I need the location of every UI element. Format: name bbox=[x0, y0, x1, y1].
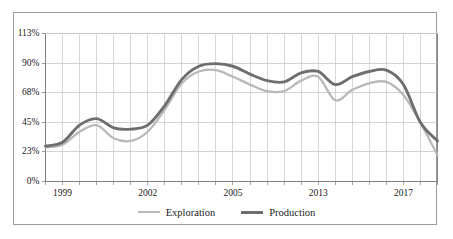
chart-figure: 0%23%45%68%90%113% 19992002200520132017 … bbox=[0, 0, 453, 239]
y-tick-label: 0% bbox=[27, 176, 40, 186]
legend-label-exploration: Exploration bbox=[166, 207, 216, 218]
legend-item-production: Production bbox=[241, 207, 315, 218]
y-tick-label: 90% bbox=[22, 58, 39, 68]
y-tick-label: 113% bbox=[18, 28, 40, 38]
y-tick-label: 23% bbox=[22, 146, 39, 156]
axis-lines bbox=[42, 34, 438, 185]
x-tick-label: 2002 bbox=[128, 188, 168, 198]
x-tick-label: 2013 bbox=[298, 188, 338, 198]
series-line-production bbox=[46, 64, 438, 147]
data-series-layer bbox=[46, 64, 438, 156]
legend-item-exploration: Exploration bbox=[138, 207, 216, 218]
series-line-exploration bbox=[46, 70, 438, 156]
legend-swatch-production bbox=[241, 211, 263, 214]
y-tick-label: 68% bbox=[22, 87, 39, 97]
legend-label-production: Production bbox=[269, 207, 315, 218]
chart-legend: Exploration Production bbox=[0, 204, 453, 220]
legend-swatch-exploration bbox=[138, 211, 160, 213]
x-tick-label: 2017 bbox=[383, 188, 423, 198]
x-tick-label: 2005 bbox=[213, 188, 253, 198]
gridlines bbox=[46, 34, 438, 182]
y-tick-label: 45% bbox=[22, 117, 39, 127]
x-tick-label: 1999 bbox=[43, 188, 83, 198]
